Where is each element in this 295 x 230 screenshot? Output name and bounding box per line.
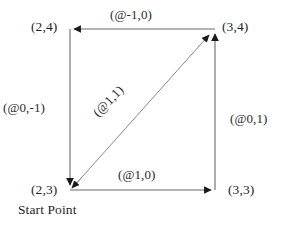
edge-label-bottom: (@1,0) <box>118 168 155 181</box>
edge-label-right: (@0,1) <box>230 112 267 125</box>
vertex-label-bottom-right: (3,3) <box>228 183 254 197</box>
vertex-label-top-right: (3,4) <box>222 20 248 34</box>
diagram-canvas: (2,4) (3,4) (2,3) (3,3) (@-1,0) (@0,-1) … <box>0 0 295 230</box>
start-point-note: Start Point <box>18 203 76 217</box>
edge-label-left: (@0,-1) <box>3 101 45 114</box>
vertex-label-bottom-left: (2,3) <box>31 183 57 197</box>
vertex-label-top-left: (2,4) <box>31 20 57 34</box>
edge-label-top: (@-1,0) <box>110 8 152 21</box>
edge-diagonal-tail-arrow <box>72 177 82 188</box>
